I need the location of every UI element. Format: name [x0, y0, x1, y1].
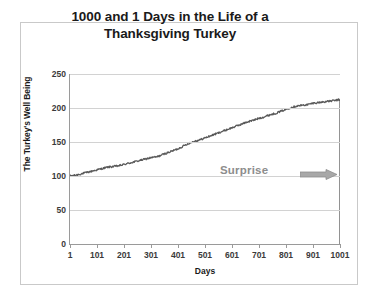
- x-tick-mark: [124, 244, 125, 248]
- x-tick-mark: [205, 244, 206, 248]
- x-tick-label: 1001: [323, 250, 357, 260]
- annotation-surprise-label: Surprise: [220, 164, 268, 176]
- x-tick-mark: [70, 244, 71, 248]
- x-tick-mark: [340, 244, 341, 248]
- x-tick-mark: [259, 244, 260, 248]
- x-tick-mark: [286, 244, 287, 248]
- x-tick-mark: [178, 244, 179, 248]
- right-arrow-icon: [300, 169, 338, 180]
- x-axis-title: Days: [70, 266, 340, 276]
- x-tick-mark: [232, 244, 233, 248]
- x-axis-ticks: 1 101 201 301 401 501 601 701 801 901 10…: [0, 0, 383, 307]
- chart-screenshot: 1000 and 1 Days in the Life of a Thanksg…: [0, 0, 383, 307]
- x-tick-mark: [151, 244, 152, 248]
- x-tick-mark: [97, 244, 98, 248]
- x-tick-mark: [313, 244, 314, 248]
